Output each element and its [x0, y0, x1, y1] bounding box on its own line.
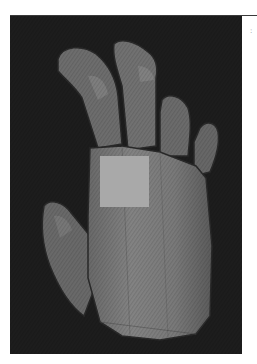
highlighted-patch	[100, 156, 149, 207]
side-mark: :	[250, 28, 252, 35]
render-viewport	[10, 16, 242, 354]
hand-mesh-render	[10, 16, 242, 354]
